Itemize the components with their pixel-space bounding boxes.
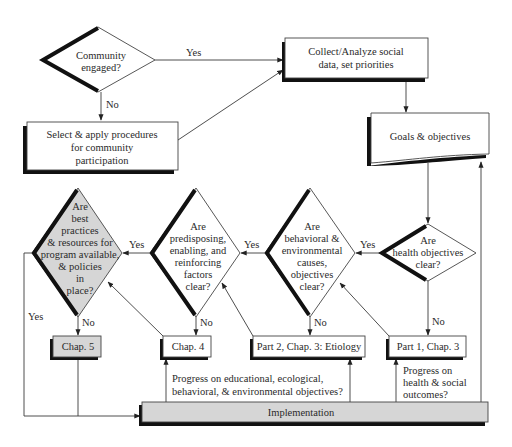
svg-text:clear?: clear? — [185, 281, 210, 292]
svg-text:Select & apply procedures: Select & apply procedures — [46, 129, 157, 140]
svg-text:practices: practices — [61, 225, 98, 236]
svg-text:Part 1, Chap. 3: Part 1, Chap. 3 — [397, 341, 460, 352]
svg-text:clear?: clear? — [415, 259, 440, 270]
svg-text:place?: place? — [67, 285, 94, 296]
svg-text:Are: Are — [304, 221, 320, 232]
svg-text:data, set priorities: data, set priorities — [319, 59, 394, 70]
svg-text:best: best — [72, 213, 89, 224]
svg-text:engaged?: engaged? — [81, 62, 121, 73]
annotation-progress-educational: Progress on educational, ecological, beh… — [172, 373, 343, 397]
label-yes: Yes — [129, 239, 144, 250]
label-yes: Yes — [244, 239, 259, 250]
svg-text:program available,: program available, — [41, 249, 120, 260]
decision-behavioral-environmental: Are behavioral & environmental causes, o… — [265, 188, 355, 317]
document-goals-objectives: Goals & objectives — [367, 113, 489, 166]
svg-text:Are: Are — [420, 235, 436, 246]
svg-text:environmental: environmental — [282, 245, 343, 256]
label-no: No — [314, 317, 327, 328]
svg-text:factors: factors — [184, 269, 213, 280]
label-yes: Yes — [186, 47, 201, 58]
svg-text:enabling, and: enabling, and — [170, 245, 227, 256]
process-implementation: Implementation — [139, 402, 488, 426]
svg-text:outcomes?: outcomes? — [403, 389, 448, 400]
svg-text:Are: Are — [190, 221, 206, 232]
svg-text:behavioral &: behavioral & — [284, 233, 339, 244]
svg-text:health objectives: health objectives — [393, 247, 464, 258]
svg-text:participation: participation — [75, 155, 129, 166]
svg-text:predisposing,: predisposing, — [170, 233, 226, 244]
label-yes: Yes — [360, 239, 375, 250]
svg-text:in: in — [76, 273, 85, 284]
svg-text:for community: for community — [71, 142, 134, 153]
svg-text:health & social: health & social — [403, 377, 467, 388]
svg-text:Collect/Analyze social: Collect/Analyze social — [308, 46, 403, 57]
process-collect-analyze: Collect/Analyze social data, set priorit… — [282, 38, 428, 82]
label-no: No — [432, 316, 445, 327]
label-no: No — [200, 317, 213, 328]
process-part1-chap3: Part 1, Chap. 3 — [386, 336, 466, 360]
decision-predisposing: Are predisposing, enabling, and reinforc… — [150, 188, 240, 317]
flowchart-diagram: Yes No Yes No Yes No Yes No Yes No Commu… — [0, 0, 512, 447]
svg-text:Chap. 5: Chap. 5 — [62, 341, 95, 352]
svg-text:reinforcing: reinforcing — [175, 257, 222, 268]
label-no: No — [106, 99, 119, 110]
process-part2-chap3: Part 2, Chap. 3: Etiology — [250, 336, 365, 360]
svg-text:& resources for: & resources for — [47, 237, 113, 248]
svg-text:objectives: objectives — [291, 269, 334, 280]
process-chap5: Chap. 5 — [50, 336, 101, 360]
edge-select-collect — [178, 70, 283, 140]
svg-text:causes,: causes, — [297, 257, 327, 268]
decision-community-engaged: Community engaged? — [42, 27, 155, 92]
edge-part1-behavioral — [340, 283, 389, 336]
svg-text:Progress on: Progress on — [403, 365, 453, 376]
svg-text:Goals & objectives: Goals & objectives — [390, 131, 470, 142]
svg-text:Part 2, Chap. 3: Etiology: Part 2, Chap. 3: Etiology — [257, 341, 362, 352]
svg-text:clear?: clear? — [299, 281, 324, 292]
svg-text:Community: Community — [76, 50, 127, 61]
decision-health-objectives: Are health objectives clear? — [380, 224, 476, 281]
label-no: No — [82, 317, 95, 328]
svg-text:Are: Are — [72, 201, 88, 212]
label-yes: Yes — [28, 311, 43, 322]
edge-chap4-best — [108, 282, 163, 336]
svg-text:Progress on educational, ecolo: Progress on educational, ecological, — [172, 373, 323, 384]
annotation-progress-health: Progress on health & social outcomes? — [403, 365, 467, 400]
svg-text:behavioral, & environmental ob: behavioral, & environmental objectives? — [172, 386, 343, 397]
process-select-apply: Select & apply procedures for community … — [23, 122, 178, 174]
svg-text:Implementation: Implementation — [268, 407, 335, 418]
process-chap4: Chap. 4 — [160, 336, 211, 360]
decision-best-practices: Are best practices & resources for progr… — [32, 188, 122, 317]
svg-text:Chap. 4: Chap. 4 — [172, 341, 205, 352]
svg-text:& policies: & policies — [58, 261, 101, 272]
edge-part2-predisposing — [222, 283, 253, 336]
